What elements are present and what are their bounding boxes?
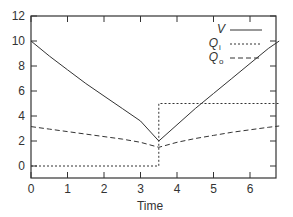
line-chart: 024681012 0123456 Time V Q i Q o	[0, 0, 293, 217]
legend-label-qi: Q	[209, 36, 218, 50]
x-axis-label: Time	[137, 199, 164, 213]
x-tick-label: 2	[101, 182, 108, 196]
series-lines	[31, 41, 279, 166]
legend-label-qi-sub: i	[219, 43, 221, 52]
y-tick-label: 0	[18, 159, 25, 173]
legend: V Q i Q o	[209, 22, 262, 66]
legend-label-v: V	[217, 22, 226, 36]
y-axis-ticks: 024681012	[12, 9, 276, 173]
x-tick-label: 3	[137, 182, 144, 196]
y-tick-label: 10	[12, 34, 26, 48]
y-tick-label: 8	[18, 59, 25, 73]
x-tick-label: 5	[210, 182, 217, 196]
legend-label-qo-sub: o	[219, 57, 224, 66]
y-tick-label: 6	[18, 84, 25, 98]
series-v-line	[31, 41, 279, 141]
x-tick-label: 6	[247, 182, 254, 196]
legend-label-qo: Q	[209, 50, 218, 64]
series-qi-line	[31, 104, 279, 167]
x-tick-label: 4	[174, 182, 181, 196]
y-tick-label: 4	[18, 109, 25, 123]
y-tick-label: 12	[12, 9, 26, 23]
x-tick-label: 1	[64, 182, 71, 196]
plot-frame	[31, 16, 276, 178]
x-tick-label: 0	[28, 182, 35, 196]
y-tick-label: 2	[18, 134, 25, 148]
